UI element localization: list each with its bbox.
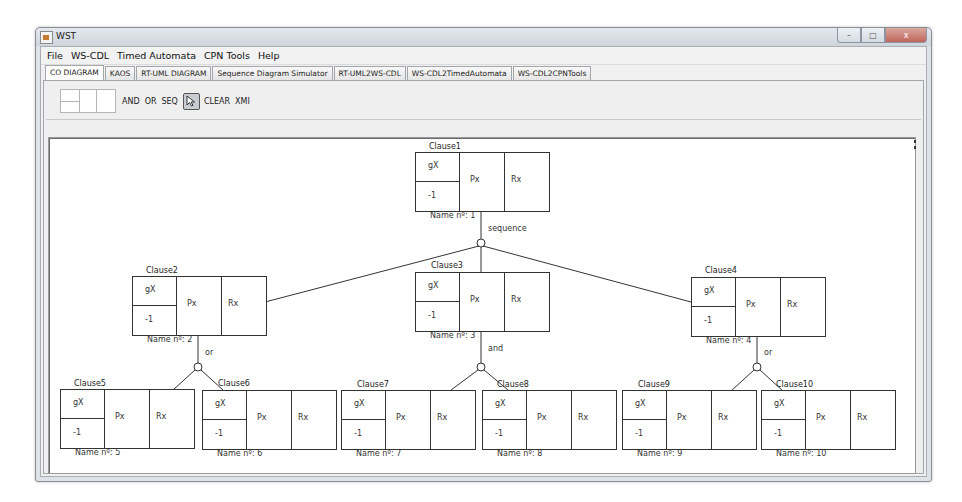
guard-value: gX [73, 398, 84, 407]
p-value: Px [677, 413, 687, 422]
time-value: -1 [145, 315, 153, 324]
r-value: Rx [228, 299, 238, 308]
guard-value: gX [354, 399, 365, 408]
guard-value: gX [704, 286, 715, 295]
clause-name: Name nº: 5 [75, 448, 120, 457]
guard-value: gX [774, 399, 785, 408]
p-value: Px [537, 413, 547, 422]
r-value: Rx [156, 412, 166, 421]
operator-label-or: or [764, 348, 772, 357]
time-value: -1 [215, 429, 223, 438]
clause-box-4[interactable]: gX -1 Px Rx [691, 277, 826, 337]
time-value: -1 [774, 429, 782, 438]
clause-box-1[interactable]: gX -1 Px Rx [415, 152, 550, 212]
clause-name: Name nº: 7 [356, 449, 401, 458]
guard-value: gX [495, 399, 506, 408]
time-value: -1 [428, 191, 436, 200]
clause-title: Clause1 [429, 142, 461, 151]
time-value: -1 [73, 428, 81, 437]
clause-box-8[interactable]: gX -1 Px Rx [482, 390, 617, 450]
r-value: Rx [857, 413, 867, 422]
clause-name: Name nº: 4 [706, 336, 751, 345]
clause-title: Clause3 [431, 261, 463, 270]
clause-name: Name nº: 2 [147, 335, 192, 344]
operator-label-or: or [205, 348, 213, 357]
clause-name: Name nº: 10 [776, 449, 826, 458]
guard-value: gX [428, 281, 439, 290]
p-value: Px [470, 295, 480, 304]
clause-box-2[interactable]: gX -1 Px Rx [132, 276, 267, 336]
p-value: Px [115, 412, 125, 421]
clause-name: Name nº: 8 [497, 449, 542, 458]
clause-box-6[interactable]: gX -1 Px Rx [202, 390, 337, 450]
guard-value: gX [215, 399, 226, 408]
time-value: -1 [428, 311, 436, 320]
clause-name: Name nº: 9 [637, 449, 682, 458]
clause-title: Clause6 [218, 379, 250, 388]
r-value: Rx [437, 413, 447, 422]
r-value: Rx [511, 175, 521, 184]
time-value: -1 [704, 316, 712, 325]
clause-title: Clause5 [74, 379, 106, 388]
clause-name: Name nº: 1 [430, 211, 475, 220]
guard-value: gX [428, 161, 439, 170]
clause-box-7[interactable]: gX -1 Px Rx [341, 390, 476, 450]
clause-title: Clause4 [705, 266, 737, 275]
guard-value: gX [145, 285, 156, 294]
clause-name: Name nº: 3 [430, 331, 475, 340]
clause-box-10[interactable]: gX -1 Px Rx [761, 390, 896, 450]
r-value: Rx [718, 413, 728, 422]
guard-value: gX [635, 399, 646, 408]
clause-title: Clause8 [497, 380, 529, 389]
clause-box-9[interactable]: gX -1 Px Rx [622, 390, 757, 450]
r-value: Rx [298, 413, 308, 422]
p-value: Px [396, 413, 406, 422]
p-value: Px [746, 300, 756, 309]
time-value: -1 [495, 429, 503, 438]
clause-title: Clause10 [776, 380, 813, 389]
operator-label-sequence: sequence [488, 224, 527, 233]
r-value: Rx [787, 300, 797, 309]
r-value: Rx [511, 295, 521, 304]
clause-title: Clause9 [638, 380, 670, 389]
p-value: Px [257, 413, 267, 422]
operator-label-and: and [488, 344, 503, 353]
time-value: -1 [354, 429, 362, 438]
clause-name: Name nº: 6 [217, 449, 262, 458]
r-value: Rx [578, 413, 588, 422]
clause-box-3[interactable]: gX -1 Px Rx [415, 272, 550, 332]
p-value: Px [187, 299, 197, 308]
clause-title: Clause2 [146, 266, 178, 275]
clause-title: Clause7 [357, 380, 389, 389]
time-value: -1 [635, 429, 643, 438]
clause-box-5[interactable]: gX -1 Px Rx [60, 389, 195, 449]
p-value: Px [470, 175, 480, 184]
p-value: Px [816, 413, 826, 422]
